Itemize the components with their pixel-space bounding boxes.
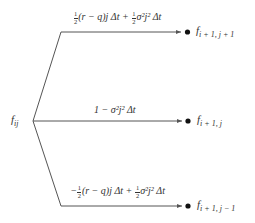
prob-term-variance: σ²j² Δt <box>140 185 165 196</box>
node-subscript: i + 1, j + 1 <box>199 30 234 39</box>
fraction-half: 12 <box>77 185 81 199</box>
node-middle-label: fi + 1, j <box>197 114 222 128</box>
fraction-denominator: 2 <box>135 193 139 200</box>
branch-up-probability: 12(r − q)j Δt + 12σ²j² Δt <box>73 11 161 25</box>
prob-term-drift: (r − q)j Δt + <box>78 11 131 22</box>
prob-term: 1 − σ²j² Δt <box>94 104 136 115</box>
root-node-subscript: ij <box>14 119 18 128</box>
node-down-dot <box>185 203 190 208</box>
node-up-dot <box>185 29 190 34</box>
branch-middle-probability: 1 − σ²j² Δt <box>94 105 136 115</box>
node-middle-dot <box>185 118 190 123</box>
fraction-denominator: 2 <box>77 193 81 200</box>
prob-term-drift: (r − q)j Δt + <box>82 185 135 196</box>
fraction-half: 12 <box>135 185 139 199</box>
root-node-label: fij <box>11 114 19 128</box>
node-subscript: i + 1, j − 1 <box>200 204 235 213</box>
node-up-label: fi + 1, j + 1 <box>196 25 234 39</box>
branch-down-probability: −12(r − q)j Δt + 12σ²j² Δt <box>71 185 165 199</box>
node-subscript: i + 1, j <box>200 119 222 128</box>
prob-term-variance: σ²j² Δt <box>136 11 161 22</box>
prob-sign: − <box>71 185 77 196</box>
node-down-label: fi + 1, j − 1 <box>197 199 235 213</box>
